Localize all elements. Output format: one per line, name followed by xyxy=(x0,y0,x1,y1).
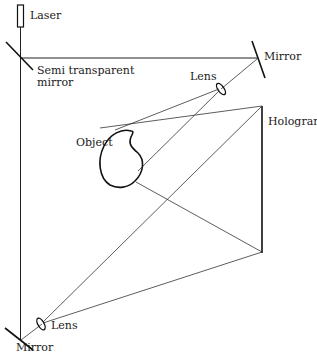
top-mirror-to-lens-ray xyxy=(221,59,257,89)
top-lens-label: Lens xyxy=(190,71,217,83)
laser-label: Laser xyxy=(30,10,61,22)
bottom-lens-icon xyxy=(35,317,47,331)
holography-diagram: Laser Semi transparent mirror Mirror Len… xyxy=(0,0,317,357)
object-to-hologram-top-ray xyxy=(100,106,262,128)
bottom-mirror-label: Mirror xyxy=(16,342,53,354)
object-label: Object xyxy=(76,137,113,149)
hologram-label: Hologram xyxy=(268,116,317,128)
laser-icon xyxy=(18,5,24,27)
semi-mirror-label-line2: mirror xyxy=(37,77,73,89)
reference-beam-bottom-ray xyxy=(43,252,262,323)
top-mirror-label: Mirror xyxy=(264,51,301,63)
object-to-hologram-bottom-ray xyxy=(136,182,262,252)
bottom-lens-label: Lens xyxy=(51,320,78,332)
semi-transparent-mirror-icon xyxy=(6,42,33,70)
object-beam-lower-ray xyxy=(138,91,219,171)
